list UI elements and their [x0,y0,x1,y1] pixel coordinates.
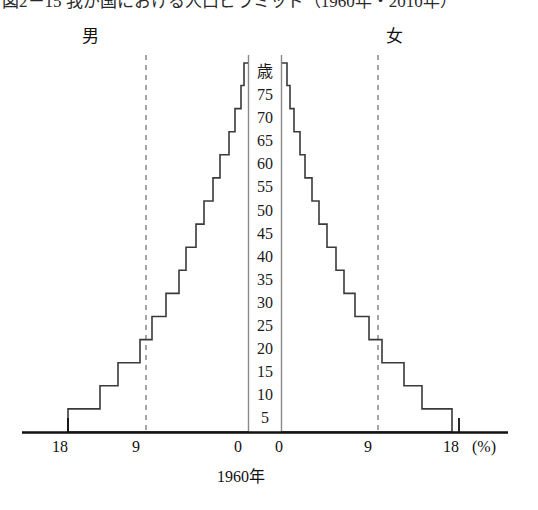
age-label-35: 35 [249,268,281,291]
age-label-5: 5 [249,406,281,429]
age-label-70: 70 [249,106,281,129]
x-label-female-0: 0 [275,438,283,456]
age-label-15: 15 [249,360,281,383]
x-label-male-18: 18 [52,438,68,456]
age-label-40: 40 [249,245,281,268]
age-label-50: 50 [249,199,281,222]
age-label-55: 55 [249,175,281,198]
age-label-20: 20 [249,337,281,360]
age-label-60: 60 [249,152,281,175]
age-label-30: 30 [249,291,281,314]
male-pyramid-outline [68,63,248,432]
age-label-10: 10 [249,383,281,406]
x-axis-unit: (%) [472,438,496,456]
x-label-female-9: 9 [364,438,372,456]
age-label-75: 75 [249,83,281,106]
age-label-unit: 歳 [249,60,281,83]
chart-caption-year: 1960年 [217,463,265,487]
x-label-male-9: 9 [132,438,140,456]
x-label-female-18: 18 [443,438,459,456]
age-label-45: 45 [249,222,281,245]
age-label-25: 25 [249,314,281,337]
age-axis-labels: 歳 75 70 65 60 55 50 45 40 35 30 25 20 15… [249,60,281,432]
age-label-65: 65 [249,129,281,152]
female-pyramid-outline [282,63,452,432]
x-label-male-0: 0 [234,438,242,456]
